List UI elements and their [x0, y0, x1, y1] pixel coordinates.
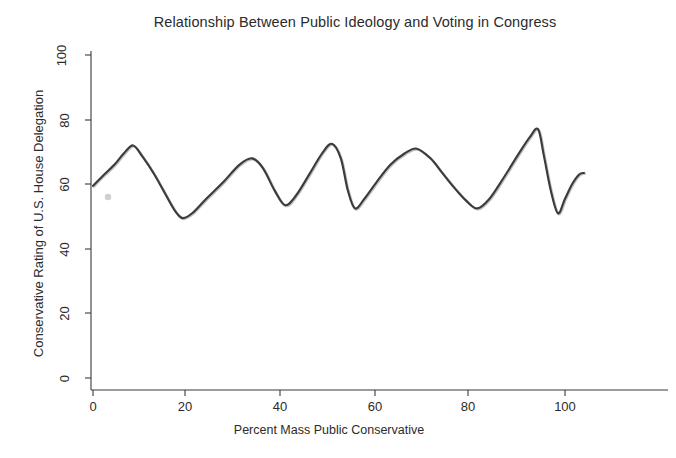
series-line — [93, 129, 584, 219]
series-line-shadow — [94, 129, 585, 219]
scan-artifact-speck — [105, 194, 111, 200]
chart-figure: Relationship Between Public Ideology and… — [0, 0, 676, 458]
y-axis-ticks — [85, 55, 91, 378]
plot-area — [0, 0, 676, 458]
x-axis-ticks — [93, 390, 565, 396]
